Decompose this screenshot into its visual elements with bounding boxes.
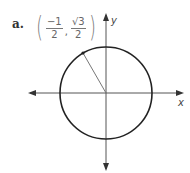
x-axis-left-arrow-icon (28, 90, 36, 96)
y-axis-down-arrow-icon (103, 163, 109, 171)
y-axis-up-arrow-icon (103, 13, 109, 21)
x-axis-right-arrow-icon (176, 90, 184, 96)
radius-line (83, 53, 106, 93)
y-axis-label: y (110, 15, 118, 26)
unit-circle-diagram: y x (0, 0, 190, 173)
x-axis-label: x (177, 97, 184, 108)
point-marker (81, 51, 84, 54)
